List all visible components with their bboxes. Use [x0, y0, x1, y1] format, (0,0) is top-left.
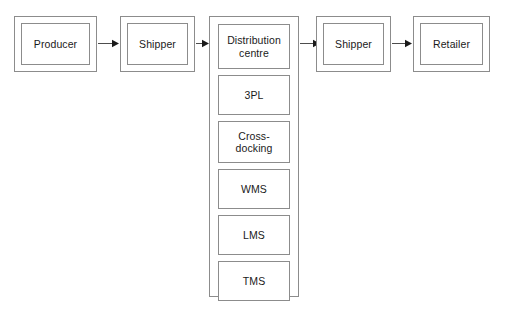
- column-item-lms-label: LMS: [243, 229, 265, 242]
- column-item-wms-label: WMS: [241, 183, 267, 196]
- arrow-shipper-upstream-to-distribution-centre: [196, 39, 210, 48]
- stage-retailer-inner: Retailer: [420, 23, 483, 65]
- stage-retailer[interactable]: Retailer: [413, 16, 490, 72]
- column-item-3pl[interactable]: 3PL: [218, 75, 290, 115]
- stage-shipper-upstream[interactable]: Shipper: [120, 16, 195, 72]
- stage-shipper-downstream-label: Shipper: [335, 38, 372, 51]
- column-item-wms[interactable]: WMS: [218, 169, 290, 209]
- column-item-tms-label: TMS: [243, 275, 265, 288]
- column-item-3pl-label: 3PL: [245, 89, 264, 102]
- column-item-distribution-centre-label: Distribution centre: [227, 34, 281, 59]
- stage-retailer-label: Retailer: [433, 38, 470, 51]
- column-item-cross-docking[interactable]: Cross- docking: [218, 121, 290, 163]
- stage-producer-label: Producer: [34, 38, 77, 51]
- stage-shipper-upstream-label: Shipper: [139, 38, 176, 51]
- column-item-tms[interactable]: TMS: [218, 261, 290, 301]
- supply-chain-flow-diagram: Producer Shipper Distribution centre 3PL…: [0, 0, 505, 313]
- stage-shipper-upstream-inner: Shipper: [127, 23, 188, 65]
- column-item-cross-docking-label: Cross- docking: [236, 130, 273, 155]
- column-item-lms[interactable]: LMS: [218, 215, 290, 255]
- arrow-shipper-downstream-to-retailer: [392, 39, 413, 48]
- stage-shipper-downstream-inner: Shipper: [323, 23, 384, 65]
- column-item-distribution-centre[interactable]: Distribution centre: [218, 24, 290, 69]
- stage-producer[interactable]: Producer: [14, 16, 97, 72]
- arrow-producer-to-shipper-upstream: [98, 39, 120, 48]
- distribution-centre-column: Distribution centre 3PL Cross- docking W…: [209, 16, 299, 297]
- stage-shipper-downstream[interactable]: Shipper: [316, 16, 391, 72]
- stage-producer-inner: Producer: [21, 23, 90, 65]
